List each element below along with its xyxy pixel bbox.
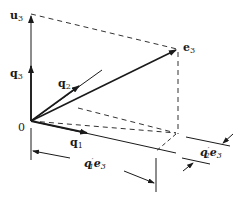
q1-vector: [31, 121, 87, 133]
q2-vector: [31, 86, 79, 121]
dashed-origin-to-base-1: [31, 121, 176, 133]
label-q1: q1: [70, 136, 83, 150]
label-e3: e3: [183, 41, 195, 55]
dim-q2-arrow-bottom: [183, 163, 193, 171]
vector-diagram: u3 q3 q2 e3 q1 0 q′1e3 q′2e3: [0, 0, 246, 204]
label-q2: q2: [58, 77, 71, 91]
e3-vector: [31, 50, 176, 121]
label-q2-prime-e3: q′2e3: [200, 146, 222, 160]
label-origin: 0: [18, 121, 25, 134]
dashed-q2-to-base: [78, 108, 176, 133]
dim-q2-ext-top: [186, 137, 230, 146]
label-u3: u3: [10, 9, 23, 23]
dim-q1-arrow-right: [124, 171, 154, 183]
dashed-u3-to-e3: [31, 14, 177, 49]
dim-q2-arrow-top: [223, 134, 233, 143]
label-q1-prime-e3: q′1e3: [84, 157, 106, 171]
dim-q1-arrow-left: [33, 151, 70, 158]
label-q3: q3: [10, 67, 23, 81]
